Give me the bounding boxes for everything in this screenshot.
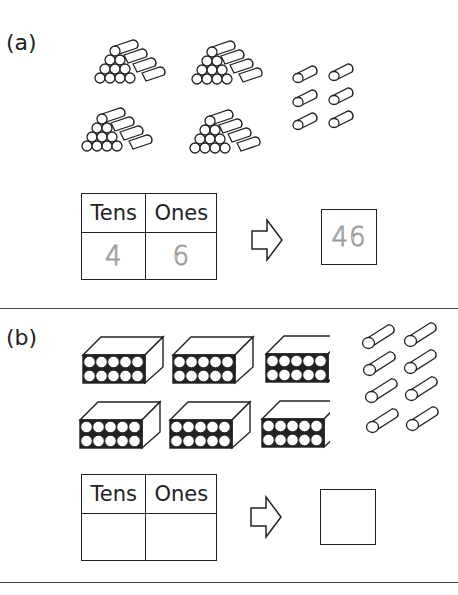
log-bundle-2 xyxy=(192,41,262,84)
log-bundle-3 xyxy=(82,108,152,151)
ones-value-cell[interactable]: 6 xyxy=(146,233,217,280)
crates xyxy=(0,320,330,460)
tens-header: Tens xyxy=(82,475,146,514)
tens-header: Tens xyxy=(82,194,146,233)
answer-value-a: 46 xyxy=(331,222,366,252)
log-bundle-4 xyxy=(190,110,260,153)
crate-3 xyxy=(266,336,330,382)
crate-5 xyxy=(170,402,250,448)
ones-header: Ones xyxy=(146,194,217,233)
ones-header: Ones xyxy=(146,475,217,514)
crate-2 xyxy=(173,337,253,383)
log-bundles xyxy=(0,0,300,175)
answer-box-b[interactable] xyxy=(320,489,376,545)
right-arrow-icon xyxy=(251,218,285,262)
tens-value: 4 xyxy=(105,241,123,271)
right-arrow-icon xyxy=(250,495,284,539)
crate-1 xyxy=(83,337,163,383)
answer-box-a[interactable]: 46 xyxy=(321,209,377,265)
ones-value-cell[interactable] xyxy=(146,514,217,561)
section-divider xyxy=(0,308,458,309)
crate-4 xyxy=(80,402,160,448)
place-value-table-b: Tens Ones xyxy=(81,474,217,561)
ones-value: 6 xyxy=(172,241,190,271)
tens-value-cell[interactable]: 4 xyxy=(82,233,146,280)
tens-value-cell[interactable] xyxy=(82,514,146,561)
crate-6 xyxy=(262,401,330,447)
loose-logs xyxy=(290,60,360,140)
loose-cans xyxy=(360,315,458,435)
place-value-table-a: Tens Ones 4 6 xyxy=(81,193,217,280)
bottom-divider xyxy=(0,582,458,583)
log-bundle-1 xyxy=(95,40,165,83)
